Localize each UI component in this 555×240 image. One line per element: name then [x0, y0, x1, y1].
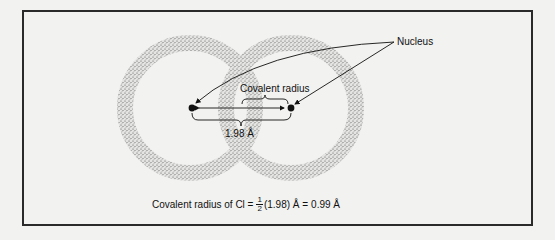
- formula-fraction: 1 2: [256, 196, 262, 213]
- fraction-denominator: 2: [256, 205, 262, 213]
- formula-result: 0.99 Å: [311, 199, 340, 210]
- bond-length-label: 1.98 Å: [225, 129, 254, 139]
- covalent-radius-label: Covalent radius: [240, 84, 309, 94]
- nucleus-left: [189, 105, 196, 112]
- nucleus-label: Nucleus: [397, 37, 433, 47]
- nucleus-right: [288, 105, 295, 112]
- bond-length-brace: [192, 113, 291, 126]
- formula-middle: (1.98) Å =: [264, 199, 308, 210]
- formula-prefix: Covalent radius of Cl =: [152, 199, 253, 210]
- covalent-radius-formula: Covalent radius of Cl = 1 2 (1.98) Å = 0…: [152, 196, 340, 213]
